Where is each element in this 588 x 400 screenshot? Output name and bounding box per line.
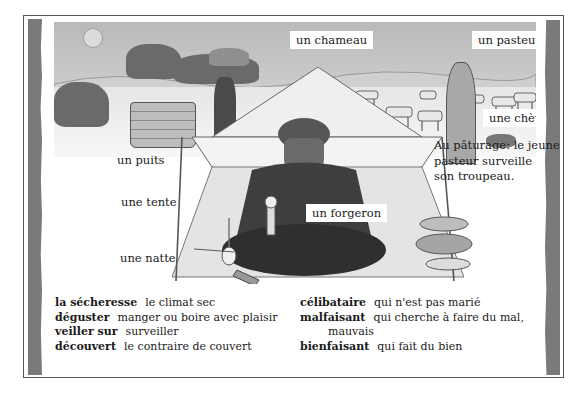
pots <box>414 212 474 272</box>
left-decorative-bar <box>28 19 42 375</box>
label-shepherd: un pasteur <box>472 31 536 49</box>
vocab-definition: le climat sec <box>145 296 215 309</box>
vocab-definition: le contraire de couvert <box>124 340 252 353</box>
vocab-definition: manger ou boire avec plaisir <box>117 311 277 324</box>
caption-line: pasteur surveille <box>434 154 569 170</box>
vocab-definition: qui n'est pas marié <box>374 296 480 309</box>
camel-load <box>209 48 249 66</box>
vocab-entry: bienfaisantqui fait du bien <box>300 340 524 355</box>
right-decorative-bar <box>545 20 560 375</box>
vocab-entry: dégustermanger ou boire avec plaisir <box>55 311 277 326</box>
vocab-term: veiller sur <box>55 325 118 338</box>
caption: Au pâturage: le jeune pasteur surveille … <box>434 138 569 185</box>
vocab-entry: découvertle contraire de couvert <box>55 340 277 355</box>
kneeling-camel <box>54 82 109 127</box>
vocab-term: déguster <box>55 311 109 324</box>
vocab-entry: la sécheressele climat sec <box>55 296 277 311</box>
vocab-continuation: mauvais <box>300 325 524 340</box>
label-blacksmith: un forgeron <box>306 204 387 222</box>
vocab-definition: qui fait du bien <box>377 340 462 353</box>
vocabulary-left: la sécheressele climat sec dégustermange… <box>55 296 277 354</box>
sun-icon <box>83 28 103 48</box>
vocab-term: malfaisant <box>300 311 365 324</box>
vocab-term: découvert <box>55 340 116 353</box>
caption-line: Au pâturage: le jeune <box>434 138 569 154</box>
vocab-entry: célibatairequi n'est pas marié <box>300 296 524 311</box>
vocab-definition: qui cherche à faire du mal, <box>373 311 524 324</box>
vocab-term: bienfaisant <box>300 340 369 353</box>
label-mat: une natte <box>120 251 176 266</box>
vocab-entry: veiller sursurveiller <box>55 325 277 340</box>
vocab-definition: surveiller <box>126 325 179 338</box>
label-tent: une tente <box>121 195 177 210</box>
mat-pointer-line <box>194 246 234 256</box>
label-camel: un chameau <box>290 31 373 49</box>
caption-line: son troupeau. <box>434 169 569 185</box>
label-goat: une chèvre <box>483 109 536 127</box>
page-frame: un chameau un pasteur une chèvre un forg… <box>23 15 564 378</box>
vocabulary-right: célibatairequi n'est pas marié malfaisan… <box>300 296 524 354</box>
vocab-term: célibataire <box>300 296 366 309</box>
vocab-term: la sécheresse <box>55 296 137 309</box>
label-well: un puits <box>117 153 164 168</box>
vocab-entry: malfaisantqui cherche à faire du mal, <box>300 311 524 326</box>
